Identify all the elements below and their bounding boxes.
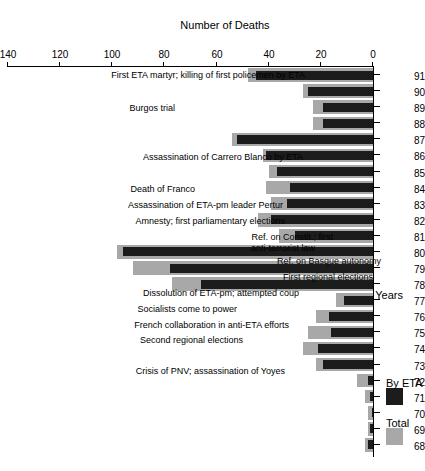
y-tick-73 [374, 364, 380, 365]
y-tick-84 [374, 187, 380, 188]
y-tick-85 [374, 171, 380, 172]
bar-by-eta-77 [344, 296, 373, 305]
y-tick-label-91: 91 [383, 71, 425, 82]
y-tick-label-81: 81 [383, 232, 425, 243]
x-tick-label-100: 100 [92, 49, 132, 60]
y-tick-90 [374, 90, 380, 91]
y-tick-label-86: 86 [383, 151, 425, 162]
bar-by-eta-72 [368, 376, 373, 385]
y-tick-label-76: 76 [383, 312, 425, 323]
y-tick-81 [374, 235, 380, 236]
x-tick-label-0: 0 [353, 49, 393, 60]
bar-by-eta-70 [372, 408, 373, 417]
y-tick-label-84: 84 [383, 184, 425, 195]
y-tick-label-90: 90 [383, 87, 425, 98]
bar-by-eta-73 [323, 360, 373, 369]
bar-by-eta-90 [308, 87, 373, 96]
y-tick-69 [374, 428, 380, 429]
chart-annotation: Assassination of ETA-pm leader Pertur [128, 200, 283, 210]
y-tick-79 [374, 267, 380, 268]
x-tick-label-80: 80 [144, 49, 184, 60]
y-tick-label-73: 73 [383, 361, 425, 372]
y-tick-label-88: 88 [383, 119, 425, 130]
chart-figure-rotated: Total By ETA 020406080100120140 68697071… [0, 0, 425, 471]
y-tick-82 [374, 219, 380, 220]
chart-annotation: Burgos trial [129, 103, 175, 113]
y-tick-88 [374, 122, 380, 123]
y-tick-91 [374, 74, 380, 75]
x-tick-label-120: 120 [40, 49, 80, 60]
bar-chart: Total By ETA 020406080100120140 68697071… [0, 0, 425, 471]
y-tick-label-89: 89 [383, 103, 425, 114]
y-tick-label-69: 69 [383, 425, 425, 436]
chart-annotation: anti-terrorist law [251, 243, 315, 253]
y-tick-label-85: 85 [383, 168, 425, 179]
bar-by-eta-68 [368, 440, 373, 449]
chart-annotation: Death of Franco [130, 184, 195, 194]
y-tick-label-83: 83 [383, 200, 425, 211]
y-axis-title: Years [375, 289, 403, 301]
y-tick-83 [374, 203, 380, 204]
chart-annotation: Crisis of PNV; assassination of Yoyes [136, 366, 285, 376]
chart-annotation: French collaboration in anti-ETA efforts [134, 320, 289, 330]
chart-annotation: Dissolution of ETA-pm; attempted coup [143, 288, 299, 298]
y-tick-label-72: 72 [383, 377, 425, 388]
chart-annotation: First regional elections [283, 272, 373, 282]
chart-annotation: First ETA martyr; killing of first polic… [111, 70, 305, 80]
y-tick-71 [374, 396, 380, 397]
y-tick-label-70: 70 [383, 409, 425, 420]
chart-annotation: Assassination of Carrero Blanco by ETA [143, 152, 303, 162]
y-tick-label-80: 80 [383, 248, 425, 259]
chart-annotation: Ref. on Basque autonomy [277, 256, 381, 266]
chart-annotation: Ref. on Constit.; first [251, 232, 333, 242]
chart-annotation: Second regional elections [140, 335, 243, 345]
y-tick-75 [374, 331, 380, 332]
y-tick-72 [374, 380, 380, 381]
bar-by-eta-75 [331, 328, 373, 337]
chart-annotation: Amnesty; first parliamentary elections [135, 216, 285, 226]
y-tick-label-75: 75 [383, 328, 425, 339]
bar-by-eta-76 [329, 312, 373, 321]
bar-by-eta-89 [323, 103, 373, 112]
y-tick-76 [374, 315, 380, 316]
bar-by-eta-87 [237, 135, 373, 144]
bar-by-eta-83 [287, 199, 373, 208]
x-axis-title: Number of Deaths [125, 19, 325, 31]
x-tick-label-40: 40 [249, 49, 289, 60]
x-tick-label-20: 20 [301, 49, 341, 60]
y-tick-74 [374, 347, 380, 348]
bar-by-eta-88 [323, 119, 373, 128]
bar-by-eta-84 [290, 183, 373, 192]
x-tick-label-60: 60 [197, 49, 237, 60]
y-tick-70 [374, 412, 380, 413]
y-tick-87 [374, 138, 380, 139]
y-tick-label-71: 71 [383, 393, 425, 404]
y-tick-label-74: 74 [383, 344, 425, 355]
bar-by-eta-85 [277, 167, 373, 176]
bar-by-eta-82 [271, 215, 373, 224]
y-tick-label-82: 82 [383, 216, 425, 227]
y-tick-label-68: 68 [383, 441, 425, 452]
y-tick-label-79: 79 [383, 264, 425, 275]
bar-by-eta-74 [318, 344, 373, 353]
y-tick-86 [374, 154, 380, 155]
y-tick-89 [374, 106, 380, 107]
y-tick-78 [374, 283, 380, 284]
bar-by-eta-71 [370, 392, 373, 401]
x-tick-label-140: 140 [0, 49, 28, 60]
y-tick-80 [374, 251, 380, 252]
bar-by-eta-69 [370, 424, 373, 433]
y-tick-label-87: 87 [383, 135, 425, 146]
chart-annotation: Socialists come to power [137, 304, 237, 314]
y-tick-68 [374, 444, 380, 445]
